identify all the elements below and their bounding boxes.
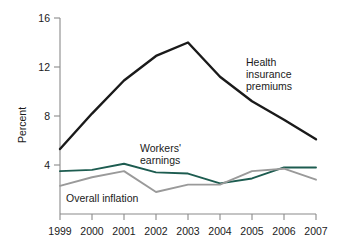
annotation-line: Health: [246, 56, 277, 68]
x-tick-label: 2005: [240, 225, 264, 237]
y-tick-label: 12: [38, 61, 50, 73]
x-tick-label: 2006: [272, 225, 296, 237]
y-tick-label: 4: [44, 159, 50, 171]
x-tick-label: 2003: [176, 225, 200, 237]
annotation-line: Workers': [140, 142, 181, 154]
y-tick-label: 8: [44, 110, 50, 122]
x-tick-label: 2002: [144, 225, 168, 237]
annotation-line: premiums: [246, 80, 292, 92]
y-tick-label: 16: [38, 12, 50, 24]
annotation-line: earnings: [140, 154, 180, 166]
x-tick-label: 1999: [48, 225, 72, 237]
x-tick-label: 2000: [80, 225, 104, 237]
x-tick-label: 2001: [112, 225, 136, 237]
x-tick-label: 2007: [304, 225, 328, 237]
annotation-line: insurance: [246, 68, 292, 80]
chart-container: 481216 199920002001200220032004200520062…: [0, 0, 355, 250]
annotation-line: Overall inflation: [66, 192, 139, 204]
line-chart: 481216 199920002001200220032004200520062…: [0, 0, 355, 250]
x-tick-label: 2004: [208, 225, 232, 237]
annotation-overall-inflation: Overall inflation: [66, 192, 139, 204]
annotation-workers-earnings: Workers'earnings: [140, 142, 181, 166]
chart-background: [0, 0, 355, 250]
x-axis-tick-labels: 199920002001200220032004200520062007: [48, 225, 328, 237]
y-axis-title: Percent: [16, 107, 28, 143]
